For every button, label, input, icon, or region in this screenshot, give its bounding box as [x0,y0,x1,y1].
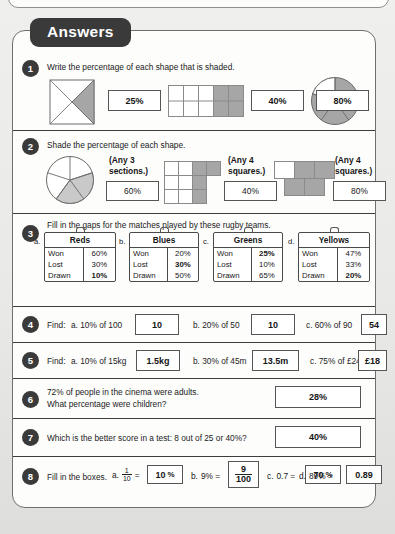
part-a-letter: a. [112,470,119,480]
rugby-team-name: Reds [45,233,115,248]
caption-line-2: squares.) [335,166,372,176]
table-row: Lost30% [130,259,198,270]
row-value: 10% [251,259,282,270]
row-value: 33% [337,259,369,270]
shape-square-diagonals [49,79,95,125]
table-row: Won25% [214,248,282,259]
rugby-team-letter-greens: c. [203,237,209,246]
rugby-team-table: BluesWon20%Lost30%Drawn50% [129,232,199,282]
part-b-lhs: 9% = [201,471,220,481]
shape-grid-5x2 [168,85,244,117]
question-5-row: 5 Find: a. 10% of 15kg 1.5kg b. 30% of 4… [13,343,375,379]
question-4-answer-b: 10 [251,314,295,335]
question-8-part-b: b. 9% = [191,471,220,481]
table-row: Lost10% [214,259,282,270]
question-8-answer-a: 10% [147,465,183,484]
question-4-row: 4 Find: a. 10% of 100 10 b. 20% of 50 10… [13,307,375,343]
fraction-nine-hundredths: 9 100 [235,465,252,484]
rugby-team-name: Yellows [299,233,369,248]
question-2-row: 2 Shade the percentage of each shape. (A… [13,131,375,214]
answer-a-value: 10 [155,470,165,480]
question-8-part-a: a. 1 10 = [112,467,143,482]
question-6-row: 6 72% of people in the cinema were adult… [13,379,375,419]
rugby-team-rows: Won60%Lost30%Drawn10% [45,248,115,281]
caption-line-1: (Any 4 [228,155,254,165]
row-value: 30% [167,259,198,270]
fraction-denominator: 100 [235,474,252,484]
question-5-number: 5 [22,352,39,369]
row-label: Drawn [45,270,83,281]
table-row: Drawn50% [130,270,198,281]
table-row: Drawn65% [214,270,282,281]
question-4-label: Find: [47,320,65,331]
question-4-number: 4 [22,316,39,333]
question-5-answer-a: 1.5kg [136,350,180,371]
question-6-number: 6 [22,391,39,408]
rugby-team-letter-blues: b. [119,237,125,246]
table-row: Lost33% [299,259,369,270]
rugby-team-rows: Won20%Lost30%Drawn50% [130,248,198,281]
rugby-team-card-greens: GreensWon25%Lost10%Drawn65% [213,232,283,282]
question-6-answer: 28% [275,386,361,408]
row-label: Lost [214,259,251,270]
question-1-answer-c: 80% [316,90,369,111]
question-7-answer: 40% [275,426,361,448]
rugby-team-name: Blues [130,233,198,248]
question-8-number: 8 [22,468,39,485]
row-value: 65% [251,270,282,281]
fraction-numerator: 1 [125,467,129,474]
caption-line-2: sections.) [109,166,148,176]
question-2-caption-c: (Any 4 squares.) [335,155,372,176]
question-4-part-a-text: a. 10% of 100 [71,320,122,331]
question-8-part-d-text: d. 89% = [299,471,333,481]
row-label: Won [130,248,167,259]
question-4-part-b-text: b. 20% of 50 [193,320,240,331]
question-5-part-b-text: b. 30% of 45m [193,356,247,367]
row-value: 25% [251,248,282,259]
row-value: 50% [167,270,198,281]
question-5-part-a-text: a. 10% of 15kg [71,356,126,367]
caption-line-2: squares.) [228,166,265,176]
part-d-letter: d. [299,471,306,481]
rugby-team-card-reds: RedsWon60%Lost30%Drawn10% [44,232,116,282]
answers-tab-label: Answers [30,18,131,47]
row-value: 60% [83,248,115,259]
rugby-team-rows: Won47%Lost33%Drawn20% [299,248,369,281]
rugby-team-table: YellowsWon47%Lost33%Drawn20% [298,232,370,282]
row-value: 20% [337,270,369,281]
question-7-number: 7 [22,429,39,446]
shape-offset-blocks-c [274,161,336,205]
part-c-letter: c. [267,471,273,481]
question-2-answer-c: 80% [333,181,386,201]
question-2-answer-a: 60% [106,181,159,201]
question-6-prompt-line-1: 72% of people in the cinema were adults. [47,387,199,398]
part-d-lhs: 89% = [309,471,333,481]
rugby-team-table: RedsWon60%Lost30%Drawn10% [44,232,116,282]
table-row: Drawn20% [299,270,369,281]
part-a-equals: = [135,470,140,480]
page-top-edge-decoration [8,0,389,8]
row-value: 47% [337,248,369,259]
fraction-one-tenth: 1 10 [122,467,132,482]
row-label: Won [45,248,83,259]
part-c-lhs: 0.7 = [276,471,295,481]
table-row: Won47% [299,248,369,259]
row-label: Won [214,248,251,259]
row-label: Drawn [299,270,337,281]
fraction-denominator: 10 [122,474,132,482]
question-2-caption-a: (Any 3 sections.) [109,155,148,176]
question-5-part-c-text: c. 75% of £24 [310,356,361,367]
question-5-answer-c: £18 [358,350,387,371]
caption-line-1: (Any 4 [335,155,361,165]
rugby-team-rows: Won25%Lost10%Drawn65% [214,248,282,281]
question-2-number: 2 [22,138,39,155]
question-7-row: 7 Which is the better score in a test: 8… [13,419,375,457]
question-1-answer-a: 25% [108,90,161,111]
table-row: Drawn10% [45,270,115,281]
row-label: Lost [130,259,167,270]
question-1-row: 1 Write the percentage of each shape tha… [13,52,375,131]
question-2-caption-b: (Any 4 squares.) [228,155,265,176]
row-label: Won [299,248,337,259]
row-label: Drawn [214,270,251,281]
question-2-prompt: Shade the percentage of each shape. [47,140,185,151]
